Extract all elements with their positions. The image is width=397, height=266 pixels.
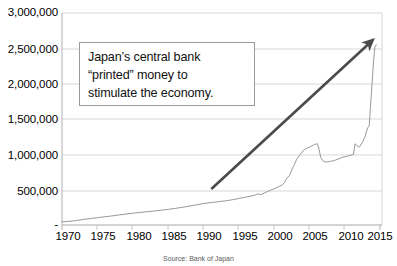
x-tick-label-1995: 1995: [225, 230, 265, 242]
x-tick-label-2000: 2000: [260, 230, 300, 242]
x-tick-label-1980: 1980: [119, 230, 159, 242]
chart-container: 3,000,000 2,500,000 2,000,000 1,500,000 …: [0, 0, 397, 266]
x-tick-label-2015: 2015: [360, 230, 397, 242]
commentary-callout: Japan’s central bank “printed” money to …: [79, 42, 255, 106]
source-caption: Source: Bank of Japan: [0, 255, 397, 264]
x-tick-label-1975: 1975: [83, 230, 123, 242]
x-tick-label-1990: 1990: [189, 230, 229, 242]
callout-line-3: stimulate the economy.: [88, 84, 254, 102]
x-axis-tick-labels: 1970 1975 1980 1985 1990 1995 2000 2005 …: [0, 230, 397, 246]
callout-line-1: Japan’s central bank: [88, 48, 254, 66]
x-tick-label-2005: 2005: [295, 230, 335, 242]
callout-line-2: “printed” money to: [88, 66, 254, 84]
x-tick-label-1970: 1970: [48, 230, 88, 242]
plot-area: [0, 0, 397, 266]
x-tick-label-1985: 1985: [154, 230, 194, 242]
